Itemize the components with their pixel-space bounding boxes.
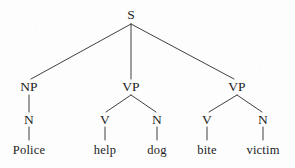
tree-edge-vp1-n2 (131, 95, 156, 112)
tree-node-s: S (127, 8, 135, 22)
syntax-tree-diagram: SNPVPVPNVNVNPolicehelpdogbitevictim (0, 0, 295, 168)
tree-node-np: NP (20, 80, 38, 94)
tree-edge-s-vp2 (131, 24, 234, 79)
tree-edge-s-np (31, 24, 131, 79)
tree-edge-vp1-v1 (106, 95, 131, 112)
tree-node-vp1: VP (122, 80, 140, 94)
tree-edge-vp2-n3 (237, 95, 262, 112)
tree-node-w-help: help (94, 144, 116, 157)
tree-node-w-dog: dog (147, 144, 166, 157)
tree-node-n2: N (152, 113, 162, 127)
tree-edge-vp2-v2 (209, 95, 237, 112)
tree-node-n1: N (24, 113, 34, 127)
tree-node-v1: V (100, 113, 110, 127)
tree-node-w-police: Police (13, 144, 45, 157)
tree-node-w-victim: victim (246, 144, 279, 157)
tree-node-vp2: VP (228, 80, 246, 94)
tree-node-w-bite: bite (197, 144, 217, 157)
tree-node-n3: N (258, 113, 268, 127)
tree-node-v2: V (202, 113, 212, 127)
